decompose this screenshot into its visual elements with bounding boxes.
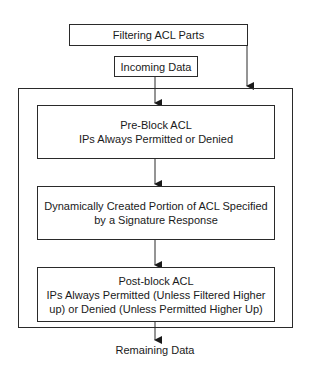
remaining-data-label: Remaining Data <box>95 344 215 356</box>
pre-block-desc: IPs Always Permitted or Denied <box>79 132 233 146</box>
dynamic-acl-line1: Dynamically Created Portion of ACL Speci… <box>44 199 267 213</box>
post-block-line2: IPs Always Permitted (Unless Filtered Hi… <box>47 288 266 302</box>
post-block-title: Post-block ACL <box>118 274 193 288</box>
filtering-acl-parts-box: Filtering ACL Parts <box>69 24 248 46</box>
filtering-acl-parts-label: Filtering ACL Parts <box>113 28 204 42</box>
dynamic-acl-line2: by a Signature Response <box>94 213 218 227</box>
pre-block-acl-box: Pre-Block ACL IPs Always Permitted or De… <box>37 105 275 159</box>
post-block-acl-box: Post-block ACL IPs Always Permitted (Unl… <box>37 267 275 322</box>
post-block-line3: up) or Denied (Unless Permitted Higher U… <box>49 302 262 316</box>
dynamic-acl-box: Dynamically Created Portion of ACL Speci… <box>37 186 275 240</box>
pre-block-title: Pre-Block ACL <box>120 118 192 132</box>
incoming-data-label: Incoming Data <box>121 60 192 74</box>
incoming-data-box: Incoming Data <box>114 56 198 77</box>
